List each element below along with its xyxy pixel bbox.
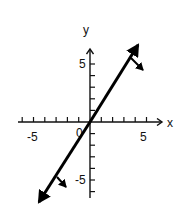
y-tick-label-5: 5 — [79, 57, 86, 71]
y-tick-label-neg5: -5 — [75, 173, 86, 187]
x-tick-label-5: 5 — [140, 130, 147, 144]
y-axis-label: y — [83, 23, 89, 37]
x-axis-ticks — [22, 117, 146, 122]
y-axis-ticks — [90, 64, 95, 192]
boundary-line — [39, 45, 138, 202]
coordinate-graph: x y 0 -5 5 5 -5 — [0, 0, 190, 218]
x-tick-label-neg5: -5 — [27, 130, 38, 144]
x-axis-label: x — [167, 116, 173, 130]
shading-arrow-bottom — [57, 177, 66, 187]
shading-arrow-top — [131, 58, 143, 70]
